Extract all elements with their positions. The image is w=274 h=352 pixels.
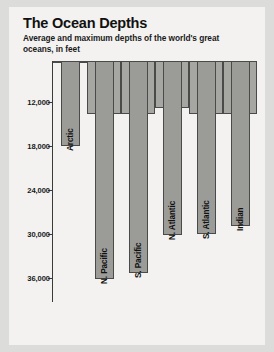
bar-column: S. Pacific xyxy=(121,61,155,302)
x-axis-category-label: N. Atlantic xyxy=(168,201,177,240)
y-axis-tick-label: 18,000 xyxy=(27,141,50,150)
x-axis-category-label: Indian xyxy=(236,207,245,231)
bar-maximum-depth xyxy=(231,61,250,226)
bar-column: Indian xyxy=(223,61,257,302)
page-title: The Ocean Depths xyxy=(23,15,147,31)
y-axis-tick-label: 30,000 xyxy=(27,229,50,238)
y-axis-tick-label: 36,000 xyxy=(27,273,50,282)
bar-maximum-depth xyxy=(129,61,148,273)
bar-maximum-depth xyxy=(95,61,114,279)
bar-column: N. Atlantic xyxy=(155,61,189,302)
x-axis-category-label: Arctic xyxy=(66,128,75,151)
x-axis-category-label: S. Atlantic xyxy=(202,200,211,239)
x-axis-category-label: N. Pacific xyxy=(100,248,109,284)
bar-column: S. Atlantic xyxy=(189,61,223,302)
bar-column: N. Pacific xyxy=(87,61,121,302)
x-axis-category-label: S. Pacific xyxy=(134,243,143,278)
chart-card: The Ocean Depths Average and maximum dep… xyxy=(9,7,265,345)
bar-column: Arctic xyxy=(53,61,87,302)
y-axis-tick-label: 12,000 xyxy=(27,98,50,107)
plot-area: 12,00018,00024,00030,00036,000 ArcticN. … xyxy=(53,61,257,302)
chart-subtitle: Average and maximum depths of the world'… xyxy=(23,33,249,54)
y-axis-tick-label: 24,000 xyxy=(27,185,50,194)
